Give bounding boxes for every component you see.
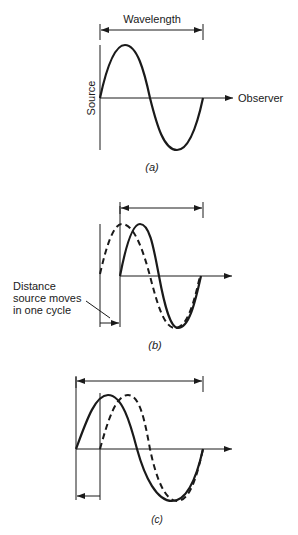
source-label: Source [85,81,97,116]
wavelength-dimension-c [76,376,203,392]
panel-b: Distance source moves in one cycle (b) [13,202,232,351]
distance-label-line1: Distance [13,280,56,292]
wave-solid-c [76,395,203,501]
observer-label: Observer [238,92,284,104]
wavelength-dimension-b [120,202,203,218]
distance-label-line2: source moves [13,292,82,304]
caption-b: (b) [148,339,162,351]
caption-c: (c) [151,514,163,525]
wavelength-label: Wavelength [123,13,181,25]
caption-a: (a) [145,161,159,173]
panel-a: Wavelength Source Observer (a) [85,13,284,173]
leader-line-b [86,301,110,318]
distance-label: Distance source moves in one cycle [13,280,85,316]
wavelength-dimension [100,24,203,40]
distance-label-line3: in one cycle [13,304,71,316]
panel-c: (c) [76,376,232,525]
doppler-diagram: Wavelength Source Observer (a) [0,0,298,535]
